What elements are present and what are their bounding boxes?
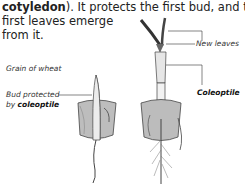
label-grain-of-wheat: Grain of wheat bbox=[6, 64, 61, 73]
label-by-prefix: by bbox=[6, 100, 18, 109]
term-coleoptile: coleoptile bbox=[18, 100, 60, 109]
label-coleoptile: Coleoptile bbox=[197, 88, 240, 97]
term-coleoptile-right: Coleoptile bbox=[197, 88, 240, 97]
grain-of-wheat-drawing bbox=[58, 75, 116, 183]
label-new-leaves: New leaves bbox=[196, 39, 239, 48]
label-by-coleoptile: by coleoptile bbox=[6, 100, 59, 109]
seedling-drawing bbox=[141, 18, 202, 184]
label-bud-protected: Bud protected bbox=[6, 90, 59, 99]
